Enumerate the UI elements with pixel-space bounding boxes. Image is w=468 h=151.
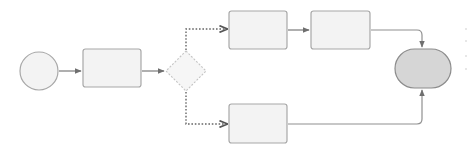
start-node[interactable] [20,52,58,90]
edge-decision-to-step2 [186,29,227,50]
decision-node[interactable] [166,51,206,91]
edge-step4-to-end [288,90,422,124]
nodes [20,11,451,143]
process-node-step1[interactable] [83,49,141,87]
process-node-step3[interactable] [311,11,370,49]
end-node[interactable] [395,49,451,88]
edge-step3-to-end [371,30,422,47]
process-node-step4[interactable] [229,104,287,143]
edge-decision-to-step4 [186,92,227,124]
flowchart-canvas [0,0,468,151]
process-node-step2[interactable] [229,11,287,49]
margin-dots [465,28,467,70]
